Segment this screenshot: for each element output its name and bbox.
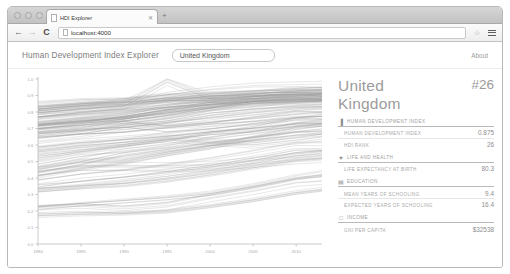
country-header: United Kingdom #26 (338, 77, 494, 114)
heart-icon: ♥ (338, 155, 344, 161)
y-tick-label: 0.2 (28, 209, 35, 214)
address-bar-url: localhost:4000 (71, 29, 111, 36)
stat-group: ♥Life and HealthLife Expectancy at Birth… (338, 155, 494, 174)
page-title: Human Development Index Explorer (22, 51, 159, 60)
y-tick-label: 0.6 (28, 143, 35, 148)
y-tick-label: 0.9 (28, 93, 35, 98)
y-tick-label: 0.5 (28, 159, 35, 164)
x-tick-label: 1985 (76, 249, 86, 254)
y-tick-label: 0.4 (28, 176, 35, 181)
stat-group-header: ▐Human Development Index (338, 119, 494, 128)
x-tick-label: 1995 (162, 249, 172, 254)
y-tick-label: 0.7 (28, 126, 35, 131)
stat-group: ▤EducationMean Years of Schooling9.4Expe… (338, 179, 494, 210)
x-tick-label: 1990 (119, 249, 129, 254)
x-tick-label: 2000 (205, 249, 215, 254)
y-tick-label: 1.0 (28, 77, 35, 82)
hamburger-menu-icon[interactable] (488, 30, 496, 36)
stat-group: ▐Human Development IndexHuman Developmen… (338, 119, 494, 150)
stat-row: HDI Rank26 (338, 139, 494, 150)
stat-group-header: ▤Education (338, 179, 494, 188)
stat-group: □IncomeGNI Per Capita$32538 (338, 215, 494, 234)
chart-x-tick-labels: 1980198519901995200020052010 (33, 249, 301, 254)
chart-y-tick-labels: 0.00.10.20.30.40.50.60.70.80.91.0 (28, 77, 35, 247)
graduation-cap-icon: ▤ (338, 179, 344, 185)
chart-bar-icon: ▐ (338, 119, 344, 125)
page-content: Human Development Index Explorer About 0… (8, 42, 502, 268)
y-tick-label: 0.1 (28, 225, 35, 230)
x-tick-label: 2005 (248, 249, 258, 254)
stat-row: Human Development Index0.875 (338, 127, 494, 139)
stat-value: 0.875 (478, 129, 494, 136)
about-link[interactable]: About (471, 52, 488, 59)
page-icon (63, 29, 68, 36)
stat-label: HDI Rank (344, 143, 369, 148)
stat-row: Expected Years of Schooling16.4 (338, 199, 494, 210)
new-tab-icon[interactable]: + (162, 12, 167, 20)
close-icon[interactable]: ✕ (148, 15, 153, 21)
country-search-input[interactable] (172, 49, 275, 62)
country-rank-badge: #26 (471, 77, 494, 93)
browser-toolbar: ← → C localhost:4000 ☆ (8, 24, 502, 42)
close-window-button[interactable] (14, 12, 21, 19)
stat-row: Mean Years of Schooling9.4 (338, 187, 494, 199)
x-tick-label: 2010 (291, 249, 301, 254)
reload-icon[interactable]: C (42, 28, 51, 37)
stat-label: Life Expectancy at Birth (344, 167, 417, 172)
stat-value: 26 (487, 141, 494, 148)
hdi-line-chart[interactable]: 0.00.10.20.30.40.50.60.70.80.91.0 198019… (8, 69, 328, 268)
app-header: Human Development Index Explorer About (8, 42, 502, 69)
browser-window: HDI Explorer ✕ + ← → C localhost:4000 ☆ … (7, 6, 503, 268)
stat-value: 9.4 (485, 190, 494, 197)
y-tick-label: 0.0 (28, 242, 35, 247)
forward-arrow-icon[interactable]: → (28, 28, 37, 37)
stat-label: Mean Years of Schooling (344, 192, 420, 197)
stat-group-label: Life and Health (347, 155, 393, 160)
stat-value: $32538 (473, 226, 494, 233)
browser-tab[interactable]: HDI Explorer ✕ (46, 9, 158, 25)
minimize-window-button[interactable] (25, 12, 32, 19)
y-tick-label: 0.8 (28, 110, 35, 115)
browser-tabstrip: HDI Explorer ✕ + (8, 7, 502, 24)
window-traffic-lights[interactable] (14, 12, 43, 19)
favicon-icon (51, 14, 57, 22)
stat-row: GNI Per Capita$32538 (338, 223, 494, 234)
stat-group-label: Human Development Index (347, 119, 425, 124)
country-detail-panel: United Kingdom #26 ▐Human Development In… (328, 69, 502, 268)
tab-title: HDI Explorer (60, 15, 145, 21)
stat-row: Life Expectancy at Birth80.3 (338, 163, 494, 174)
stat-value: 16.4 (482, 201, 494, 208)
stat-label: GNI Per Capita (344, 228, 386, 233)
maximize-window-button[interactable] (36, 12, 43, 19)
money-icon: □ (338, 215, 344, 221)
stat-value: 80.3 (482, 165, 494, 172)
chart-canvas: 0.00.10.20.30.40.50.60.70.80.91.0 198019… (8, 69, 328, 268)
stat-group-header: ♥Life and Health (338, 155, 494, 164)
stat-group-label: Education (347, 179, 378, 184)
address-bar[interactable]: localhost:4000 (58, 27, 466, 39)
stat-group-label: Income (347, 215, 368, 220)
y-tick-label: 0.3 (28, 192, 35, 197)
country-name: United Kingdom (338, 77, 442, 114)
stat-groups: ▐Human Development IndexHuman Developmen… (338, 119, 494, 235)
stat-label: Expected Years of Schooling (344, 203, 433, 208)
star-icon[interactable]: ☆ (474, 29, 480, 37)
back-arrow-icon[interactable]: ← (14, 28, 23, 37)
stat-label: Human Development Index (344, 131, 421, 136)
stat-group-header: □Income (338, 215, 494, 224)
x-tick-label: 1980 (33, 249, 43, 254)
